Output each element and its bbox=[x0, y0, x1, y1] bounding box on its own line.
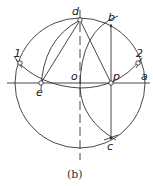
point-e-marker bbox=[39, 81, 43, 85]
label-2: 2 bbox=[136, 47, 143, 60]
label-d: d bbox=[72, 5, 80, 18]
label-a: a bbox=[141, 70, 148, 83]
label-o: o bbox=[71, 70, 78, 83]
caption: (b) bbox=[67, 168, 83, 181]
label-b: b bbox=[108, 11, 115, 24]
label-p: p bbox=[112, 70, 120, 83]
point-1-marker bbox=[18, 61, 22, 65]
label-e: e bbox=[36, 86, 43, 99]
geometric-construction-diagram: d b 1 2 e o p a c (b) bbox=[0, 0, 153, 186]
label-c: c bbox=[107, 140, 113, 153]
point-b-marker bbox=[110, 25, 112, 27]
point-2-marker bbox=[136, 61, 140, 65]
label-1: 1 bbox=[14, 47, 21, 60]
arc-1-e-p-2 bbox=[16, 60, 140, 88]
point-d-marker bbox=[78, 18, 82, 22]
